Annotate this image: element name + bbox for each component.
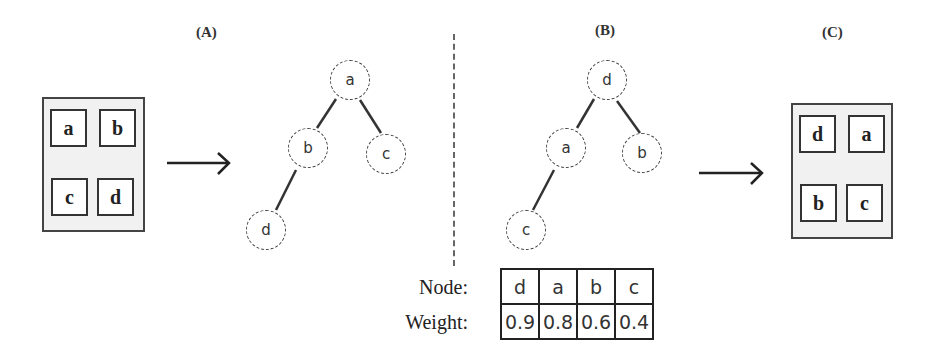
weight-cell: 0.4: [615, 304, 653, 339]
weight-row: 0.9 0.8 0.6 0.4: [501, 304, 653, 339]
tree-b-node: a: [546, 128, 586, 168]
tree-b-node: b: [622, 133, 662, 173]
arrow-right-icon: [699, 163, 762, 184]
node-cell: d: [501, 269, 539, 304]
output-cell: b: [800, 184, 837, 222]
weight-cell: 0.9: [501, 304, 539, 339]
weight-cell: 0.8: [539, 304, 577, 339]
tree-a-node: a: [330, 60, 370, 100]
node-row: d a b c: [501, 269, 653, 304]
node-row-label: Node:: [368, 276, 468, 299]
node-cell: a: [539, 269, 577, 304]
tree-b-node: d: [587, 60, 627, 100]
output-cell: c: [846, 184, 883, 222]
node-cell: c: [615, 269, 653, 304]
output-grid: d a b c: [791, 103, 893, 239]
tree-a-node: b: [288, 128, 328, 168]
weight-table: d a b c 0.9 0.8 0.6 0.4: [500, 268, 654, 340]
tree-a-node: d: [246, 210, 286, 250]
weight-cell: 0.6: [577, 304, 615, 339]
output-cell: a: [848, 115, 885, 153]
tree-b-node: c: [506, 210, 546, 250]
arrow-right-icon: [167, 153, 229, 174]
divider: [453, 34, 455, 266]
weight-row-label: Weight:: [368, 311, 468, 334]
node-cell: b: [577, 269, 615, 304]
tree-a-node: c: [366, 134, 406, 174]
output-cell: d: [799, 115, 836, 153]
